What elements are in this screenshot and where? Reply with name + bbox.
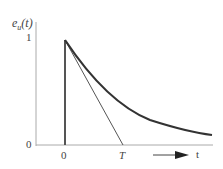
decay-curve [65,40,212,135]
origin-label: 0 [26,138,32,150]
x-tick-zero: 0 [61,149,67,161]
y-axis-label: eu(t) [12,16,33,32]
x-tick-T: T [119,149,125,161]
y-tick-1: 1 [26,31,32,43]
decay-diagram [0,0,223,169]
tangent-line [65,40,123,145]
x-axis-label: t [196,148,199,160]
arrow-head-icon [175,151,189,159]
